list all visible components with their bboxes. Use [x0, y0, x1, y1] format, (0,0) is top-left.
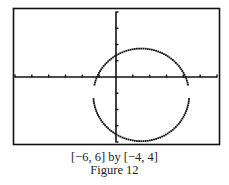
- window-caption: [−6, 6] by [−4, 4]: [0, 150, 229, 164]
- figure-caption: Figure 12: [0, 163, 229, 177]
- calculator-graph: [0, 0, 229, 150]
